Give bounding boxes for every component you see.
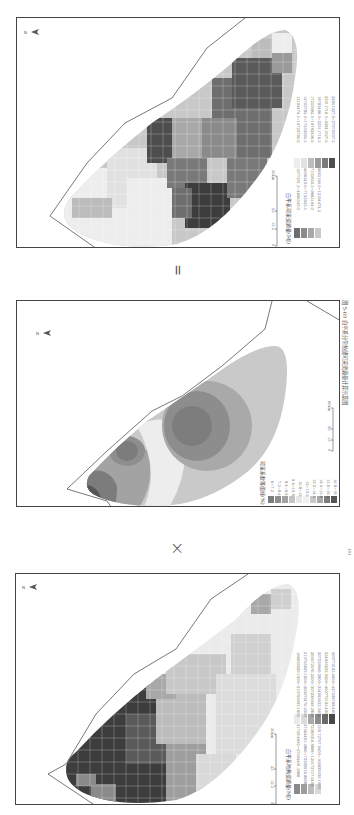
legend-swatches [294, 714, 335, 794]
legend-item: 1077231.5~4606543.0 [295, 168, 300, 210]
panel-recoverable-resource: N [16, 17, 340, 248]
legend-item: 16.8~18 [332, 479, 337, 495]
scale-tick: 0 [326, 449, 331, 451]
recovery-factor-map: N [17, 301, 340, 507]
svg-text:N: N [24, 30, 27, 35]
legend-item: 6~7.2 [269, 481, 274, 492]
panel-recovery-factor: N [16, 300, 340, 507]
scale-tick: 50km [269, 728, 274, 738]
panel-resource: N [15, 573, 340, 805]
legend-item: 9.6~10.8 [290, 479, 295, 496]
legend-item: 12194474.5~14723785.0 [295, 96, 300, 142]
scale-tick: 30 [326, 426, 331, 431]
times-sign: × [170, 538, 184, 558]
legend-item: 120172757.0400~166939330.1000 [316, 724, 321, 789]
legend-item: 7.2~8.4 [276, 481, 281, 495]
legend-item: 72383016.8898~120172757.0400 [309, 724, 314, 786]
north-arrow-icon: N [22, 584, 37, 590]
legend-item: 213705903.1600~260472476.2200 [302, 652, 307, 717]
north-arrow-icon: N [24, 29, 39, 35]
legend-item: 307239049.2800~354005622.3400 [316, 652, 321, 717]
legend-title: 白平系地热资源量(MJ) [286, 749, 293, 800]
scale-tick: 50km [270, 170, 275, 180]
svg-text:N: N [22, 585, 25, 590]
legend-item: 14723785.0~17253095.5 [302, 96, 307, 142]
legend-item: 260472476.2200~307239049.2800 [309, 652, 314, 717]
legend-item: 22311716.5~24841027.0 [323, 96, 328, 142]
scale-tick: 60km [326, 401, 331, 411]
legend-item: 7135853.5~9665164.0 [309, 168, 314, 210]
legend-item: 17253095.5~19782406.0 [309, 96, 314, 142]
north-arrow-icon: N [36, 330, 51, 336]
legend-item: 47564491.2866~72383016.8898 [302, 724, 307, 784]
legend-item: 10.8~12 [297, 481, 302, 497]
scale-bar [275, 176, 277, 246]
equals-sign: = [170, 264, 186, 276]
scale-tick: 25 [270, 208, 275, 213]
legend-item: 15.6~16.8 [325, 479, 330, 498]
legend-item: 41758.4692~47564491.2866 [295, 724, 300, 777]
legend-item: 8.4~9.6 [283, 481, 288, 495]
scale-bar [331, 408, 333, 451]
legend-item: 4606543.0~7135853.5 [302, 168, 307, 210]
legend-item: 19782406.0~22311716.5 [316, 96, 321, 142]
page-number: 191 [347, 548, 352, 556]
region-boundary [307, 301, 340, 321]
legend-item: 400772195.4000~447538768.4600 [330, 652, 335, 717]
scale-tick: 15 [326, 437, 331, 442]
legend-item: 24841027.0~27370337.5 [330, 96, 335, 142]
scale-tick: 12.5 [270, 222, 275, 230]
legend-item: 166939330.1000~213705903.1600 [295, 652, 300, 717]
scale-tick: 0 [269, 802, 274, 804]
legend-title: 可采系数等值线(%) [260, 461, 267, 505]
scale-tick: 25 [269, 766, 274, 771]
scale-bar [274, 734, 276, 804]
legend-item: 14.4~15.6 [318, 479, 323, 498]
legend-item: 354005622.3400~400772195.4000 [323, 652, 328, 717]
svg-text:N: N [36, 331, 39, 336]
figure-caption: 图 5-69 白平系分带热储可采资源量计算示意图 [342, 300, 349, 405]
scale-tick: 12.5 [269, 780, 274, 788]
scale-tick: 0 [270, 244, 275, 246]
legend-title: 白平系可采资源量(MJ) [286, 193, 293, 244]
legend-item: 12~13.2 [304, 481, 309, 497]
legend-item: 13.2~14.4 [311, 479, 316, 498]
legend-swatches [294, 158, 335, 238]
legend-item: 9665164.0~12194474.5 [316, 168, 321, 212]
